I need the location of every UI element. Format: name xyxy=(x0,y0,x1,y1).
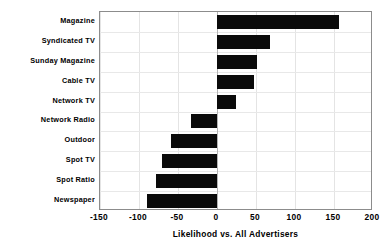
gridline-horizontal xyxy=(100,151,371,152)
gridline-vertical xyxy=(139,12,140,209)
category-label: Spot TV xyxy=(4,155,95,165)
gridline-horizontal xyxy=(100,92,371,93)
bar xyxy=(156,174,217,188)
x-tick-label: -50 xyxy=(170,212,183,222)
gridline-vertical xyxy=(295,12,296,209)
x-tick-label: -150 xyxy=(90,212,108,222)
gridline-horizontal xyxy=(100,112,371,113)
category-label: Sunday Magazine xyxy=(4,56,95,66)
bar xyxy=(217,75,254,89)
category-label: Newspaper xyxy=(4,195,95,205)
category-axis: MagazineSyndicated TVSunday MagazineCabl… xyxy=(0,11,95,210)
bar xyxy=(191,114,217,128)
bar-chart: MagazineSyndicated TVSunday MagazineCabl… xyxy=(0,0,391,250)
x-axis-title: Likelihood vs. All Advertisers xyxy=(99,229,372,239)
x-tick-label: -100 xyxy=(129,212,147,222)
gridline-vertical xyxy=(334,12,335,209)
bar xyxy=(217,95,236,109)
x-tick-label: 100 xyxy=(287,212,302,222)
bar xyxy=(162,154,217,168)
gridline-horizontal xyxy=(100,131,371,132)
category-label: Network TV xyxy=(4,96,95,106)
category-label: Network Radio xyxy=(4,115,95,125)
bar xyxy=(147,194,217,208)
x-tick-label: 200 xyxy=(365,212,380,222)
gridline-horizontal xyxy=(100,171,371,172)
category-label: Syndicated TV xyxy=(4,36,95,46)
category-label: Cable TV xyxy=(4,76,95,86)
gridline-horizontal xyxy=(100,191,371,192)
bar xyxy=(217,15,339,29)
gridline-horizontal xyxy=(100,72,371,73)
gridline-horizontal xyxy=(100,52,371,53)
category-label: Outdoor xyxy=(4,135,95,145)
x-axis-tick-labels: -150-100-50050100150200 xyxy=(99,212,372,226)
x-tick-label: 50 xyxy=(250,212,260,222)
x-tick-label: 0 xyxy=(214,212,219,222)
bar xyxy=(217,35,270,49)
category-label: Magazine xyxy=(4,16,95,26)
gridline-horizontal xyxy=(100,32,371,33)
gridline-vertical xyxy=(100,12,101,209)
plot-area xyxy=(99,11,372,210)
category-label: Spot Ratio xyxy=(4,175,95,185)
bar xyxy=(171,134,217,148)
x-tick-label: 150 xyxy=(326,212,341,222)
bar xyxy=(217,55,257,69)
